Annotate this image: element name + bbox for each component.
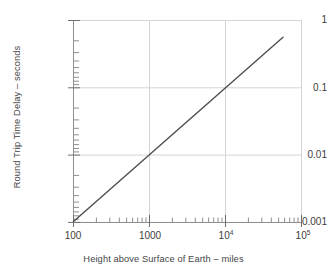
x-axis-title: Height above Surface of Earth – miles [0, 254, 327, 264]
y-axis-title: Round Trip Time Delay – seconds [12, 17, 22, 217]
